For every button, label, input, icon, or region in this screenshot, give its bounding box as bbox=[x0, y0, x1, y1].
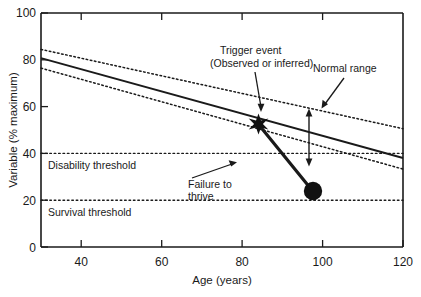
disability-threshold-label: Disability threshold bbox=[48, 159, 136, 171]
failure-to-thrive-leader-line bbox=[192, 164, 232, 178]
failure-to-thrive-label-line1: Failure to bbox=[188, 178, 232, 190]
figure-container: 100 80 60 40 20 0 40 60 80 100 120 A bbox=[0, 0, 421, 297]
x-tick-label-60: 60 bbox=[155, 255, 169, 269]
y-axis-title: Variable (% maximum) bbox=[7, 72, 19, 188]
x-tick-label-120: 120 bbox=[393, 255, 413, 269]
normal-range-span-arrow-down-icon bbox=[306, 159, 313, 167]
failure-to-thrive-line bbox=[259, 125, 311, 189]
trigger-event-label-line2: (Observed or inferred) bbox=[210, 57, 313, 69]
trigger-event-leader-line bbox=[255, 72, 261, 107]
y-tick-label-0: 0 bbox=[29, 241, 36, 255]
annotation-trigger-event: Trigger event (Observed or inferred) bbox=[210, 44, 313, 112]
y-tick-label-80: 80 bbox=[23, 53, 37, 67]
survival-threshold-label: Survival threshold bbox=[48, 206, 132, 218]
y-tick-label-40: 40 bbox=[23, 147, 37, 161]
y-tick-label-20: 20 bbox=[23, 194, 37, 208]
y-tick-label-60: 60 bbox=[23, 100, 37, 114]
x-tick-labels: 40 60 80 100 120 bbox=[75, 255, 414, 269]
normal-range-leader-line bbox=[325, 78, 344, 104]
trigger-event-arrow-icon bbox=[258, 104, 265, 112]
x-tick-label-40: 40 bbox=[75, 255, 89, 269]
failure-endpoint-circle-marker bbox=[304, 182, 322, 200]
chart-svg: 100 80 60 40 20 0 40 60 80 100 120 A bbox=[0, 0, 421, 297]
normal-range-span-arrow-up-icon bbox=[306, 109, 313, 117]
trigger-event-label-line1: Trigger event bbox=[220, 44, 282, 56]
normal-range-label: Normal range bbox=[313, 62, 377, 74]
failure-to-thrive-label-line2: thrive bbox=[188, 190, 214, 202]
annotation-normal-range: Normal range bbox=[306, 62, 377, 167]
x-tick-label-80: 80 bbox=[235, 255, 249, 269]
y-tick-labels: 100 80 60 40 20 0 bbox=[16, 6, 36, 255]
x-tick-label-100: 100 bbox=[313, 255, 333, 269]
x-axis-title: Age (years) bbox=[192, 274, 252, 286]
y-ticks bbox=[41, 13, 48, 247]
annotation-failure-to-thrive: Failure to thrive bbox=[188, 160, 237, 202]
failure-to-thrive-arrow-icon bbox=[229, 160, 237, 166]
y-tick-label-100: 100 bbox=[16, 6, 36, 20]
